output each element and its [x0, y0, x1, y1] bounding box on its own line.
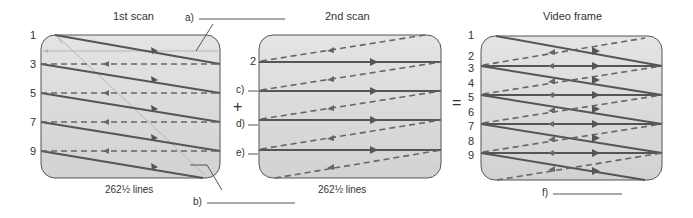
blank-b-label: b) — [193, 196, 202, 207]
line-number: 9 — [30, 145, 36, 157]
second-scan-caption: 262½ lines — [318, 184, 366, 195]
second-scan-title: 2nd scan — [325, 10, 370, 22]
line-number: 3 — [30, 58, 36, 70]
line-number: 7 — [468, 120, 474, 132]
line-number: 9 — [468, 149, 474, 161]
line-number: 6 — [468, 106, 474, 118]
plus-operator: + — [233, 98, 242, 116]
line-number: 8 — [468, 135, 474, 147]
video-frame-title: Video frame — [543, 10, 602, 22]
line-number: 5 — [30, 87, 36, 99]
blank-d-label: d) — [236, 118, 245, 129]
line-number: 1 — [30, 29, 36, 41]
line-number: 2 — [250, 55, 256, 67]
second-scan-panel — [259, 35, 441, 178]
blank-c-label: c) — [236, 84, 244, 95]
blank-f-label: f) — [542, 187, 548, 198]
blank-e-label: e) — [236, 147, 245, 158]
line-number: 7 — [30, 116, 36, 128]
line-number: 3 — [468, 62, 474, 74]
line-number: 2 — [468, 50, 474, 62]
first-scan-title: 1st scan — [113, 10, 154, 22]
line-number: 5 — [468, 91, 474, 103]
line-number: 1 — [468, 29, 474, 41]
first-scan-panel — [41, 35, 220, 178]
equals-operator: = — [452, 94, 461, 112]
video-frame-panel — [481, 36, 662, 180]
blank-a-label: a) — [185, 12, 194, 23]
line-number: 4 — [468, 77, 474, 89]
first-scan-caption: 262½ lines — [105, 184, 153, 195]
